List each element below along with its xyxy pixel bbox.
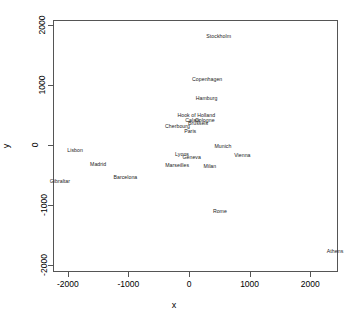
x-tick-label: -2000 xyxy=(57,279,79,289)
y-tick-label: -2000 xyxy=(39,254,49,276)
x-tick-mark xyxy=(68,272,69,277)
point-label: Lisbon xyxy=(67,148,83,153)
x-tick-mark xyxy=(189,272,190,277)
point-label: Marseilles xyxy=(165,163,189,168)
y-tick-mark xyxy=(48,25,53,26)
point-label: Stockholm xyxy=(206,34,231,39)
point-label: Barcelona xyxy=(113,175,137,180)
point-label: Gibraltar xyxy=(50,179,70,184)
scatter-plot: StockholmCopenhagenHamburgHook of Hollan… xyxy=(0,0,348,322)
point-label: Madrid xyxy=(90,162,106,167)
point-label: Athens xyxy=(327,250,343,255)
point-label: Munich xyxy=(214,145,231,150)
x-tick-label: 1000 xyxy=(240,279,259,289)
point-label: Hamburg xyxy=(196,97,218,102)
plot-panel xyxy=(53,20,338,272)
y-tick-mark xyxy=(48,85,53,86)
x-tick-label: 2000 xyxy=(301,279,320,289)
y-tick-mark xyxy=(48,145,53,146)
x-tick-mark xyxy=(310,272,311,277)
x-axis-title: x xyxy=(0,300,348,310)
y-tick-label: 0 xyxy=(30,143,40,148)
point-label: Paris xyxy=(184,129,196,134)
point-label: Geneva xyxy=(182,155,200,160)
y-axis-title: y xyxy=(1,144,11,149)
x-tick-label: -1000 xyxy=(118,279,140,289)
x-tick-label: 0 xyxy=(187,279,192,289)
point-label: Milan xyxy=(204,164,217,169)
point-label: Copenhagen xyxy=(192,78,222,83)
point-label: Vienna xyxy=(234,153,250,158)
y-tick-label: 2000 xyxy=(37,16,47,35)
point-label: Rome xyxy=(213,210,227,215)
x-tick-mark xyxy=(128,272,129,277)
y-tick-label: -1000 xyxy=(39,194,49,216)
x-tick-mark xyxy=(250,272,251,277)
y-tick-label: 1000 xyxy=(37,76,47,95)
point-label: Brussels xyxy=(188,121,208,126)
